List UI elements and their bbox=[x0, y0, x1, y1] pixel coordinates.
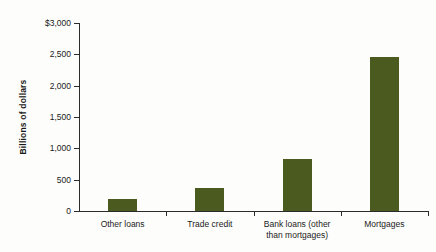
y-tick-mark bbox=[74, 117, 79, 118]
x-category-label: Mortgages bbox=[341, 219, 428, 230]
x-tick-mark bbox=[254, 211, 255, 216]
y-tick-label: 1,000 bbox=[17, 143, 71, 153]
x-category-label: Bank loans (other than mortgages) bbox=[254, 219, 341, 241]
bar bbox=[195, 188, 224, 211]
y-tick-mark bbox=[74, 180, 79, 181]
x-category-label: Other loans bbox=[79, 219, 166, 230]
y-tick-mark bbox=[74, 148, 79, 149]
x-tick-mark bbox=[166, 211, 167, 216]
y-axis-line bbox=[79, 23, 80, 211]
x-tick-mark bbox=[428, 211, 429, 216]
y-tick-label: $3,000 bbox=[17, 18, 71, 28]
x-tick-mark bbox=[341, 211, 342, 216]
y-tick-mark bbox=[74, 211, 79, 212]
y-tick-mark bbox=[74, 86, 79, 87]
y-tick-label: 500 bbox=[17, 175, 71, 185]
y-tick-label: 2,000 bbox=[17, 81, 71, 91]
y-tick-label: 2,500 bbox=[17, 49, 71, 59]
y-tick-mark bbox=[74, 54, 79, 55]
bar bbox=[370, 57, 399, 211]
y-tick-label: 1,500 bbox=[17, 112, 71, 122]
plot-area: 05001,0001,5002,0002,500$3,000 Other loa… bbox=[79, 23, 428, 211]
bar bbox=[108, 199, 137, 211]
bar bbox=[283, 159, 312, 211]
y-tick-label: 0 bbox=[17, 206, 71, 216]
bar-chart-figure: Billions of dollars 05001,0001,5002,0002… bbox=[0, 0, 436, 252]
x-category-label: Trade credit bbox=[166, 219, 253, 230]
y-tick-mark bbox=[74, 23, 79, 24]
